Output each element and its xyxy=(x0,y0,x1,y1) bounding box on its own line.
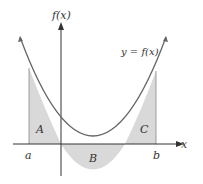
bound-label-a: a xyxy=(25,149,32,162)
curve-label: y = f(x) xyxy=(120,46,159,57)
region-label-c: C xyxy=(140,123,149,136)
region-a-fill xyxy=(29,68,61,144)
curve-left-arrow-icon xyxy=(18,36,23,42)
area-under-curve-diagram: f(x) x y = f(x) A B C a b xyxy=(0,0,203,184)
y-axis-arrow-icon xyxy=(58,22,64,30)
curve-right-arrow-icon xyxy=(163,36,168,42)
y-axis-label: f(x) xyxy=(51,9,71,22)
x-axis-label: x xyxy=(181,138,188,151)
region-label-a: A xyxy=(35,123,44,136)
bound-label-b: b xyxy=(153,149,160,162)
region-label-b: B xyxy=(88,152,97,165)
